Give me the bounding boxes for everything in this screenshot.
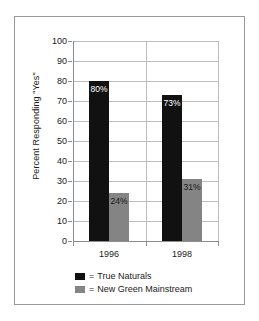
x-category-label-1998: 1998 <box>172 249 192 259</box>
y-tick-label: 60 <box>57 116 67 126</box>
y-tick-label: 100 <box>52 36 67 46</box>
y-tick-mark <box>68 41 72 42</box>
y-tick-mark <box>68 101 72 102</box>
y-tick-label: 10 <box>57 216 67 226</box>
y-tick-mark <box>68 241 72 242</box>
y-tick-mark <box>68 181 72 182</box>
y-tick-label: 70 <box>57 96 67 106</box>
y-tick-label: 80 <box>57 76 67 86</box>
legend-swatch-icon-series-a <box>75 273 85 280</box>
y-tick-mark <box>68 221 72 222</box>
x-tick-mark <box>73 241 74 246</box>
y-tick-label: 0 <box>62 236 67 246</box>
legend-label: True Naturals <box>97 271 151 281</box>
y-axis-title: Percent Responding "Yes" <box>31 41 41 211</box>
legend-swatch-icon-series-b <box>75 286 85 293</box>
x-category-label-1996: 1996 <box>99 249 119 259</box>
y-tick-label: 30 <box>57 176 67 186</box>
legend-separator: = <box>89 271 94 281</box>
y-tick-mark <box>68 81 72 82</box>
legend-item-true-naturals: = True Naturals <box>75 270 245 282</box>
y-tick-label: 40 <box>57 156 67 166</box>
x-tick-mark <box>146 241 147 246</box>
y-tick-mark <box>68 161 72 162</box>
y-tick-mark <box>68 121 72 122</box>
plot-area: 010203040506070809010080%24%199673%31%19… <box>73 41 218 241</box>
legend-label: New Green Mainstream <box>97 284 192 294</box>
bar-1996-true-naturals: 80% <box>89 81 109 241</box>
x-tick-mark <box>218 241 219 246</box>
x-category-divider <box>146 41 147 241</box>
y-tick-mark <box>68 141 72 142</box>
y-tick-mark <box>68 61 72 62</box>
bar-1996-new-green-mainstream: 24% <box>109 193 129 241</box>
bar-value-label: 80% <box>89 84 109 94</box>
y-tick-label: 20 <box>57 196 67 206</box>
y-tick-mark <box>68 201 72 202</box>
chart-plot-wrapper: Percent Responding "Yes" 010203040506070… <box>15 17 246 306</box>
chart-figure: Percent Responding "Yes" 010203040506070… <box>14 16 245 305</box>
bar-value-label: 31% <box>182 182 202 192</box>
x-category-divider <box>218 41 219 241</box>
y-tick-label: 50 <box>57 136 67 146</box>
bar-1998-new-green-mainstream: 31% <box>182 179 202 241</box>
bar-1998-true-naturals: 73% <box>162 95 182 241</box>
chart-legend: = True Naturals = New Green Mainstream <box>75 270 245 296</box>
legend-separator: = <box>89 284 94 294</box>
bar-value-label: 73% <box>162 98 182 108</box>
legend-item-new-green-mainstream: = New Green Mainstream <box>75 283 245 295</box>
x-category-divider <box>73 41 74 241</box>
y-tick-label: 90 <box>57 56 67 66</box>
bar-value-label: 24% <box>109 196 129 206</box>
